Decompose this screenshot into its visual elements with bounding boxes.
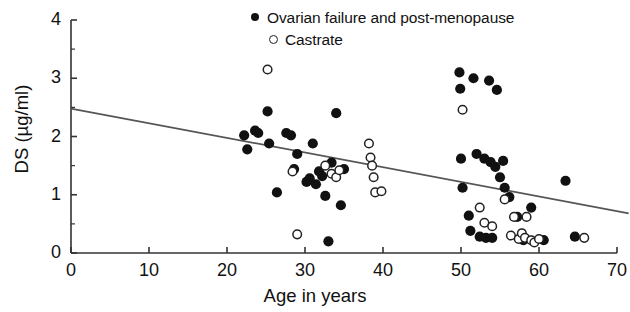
data-point-filled	[331, 108, 341, 118]
data-point-open	[368, 161, 377, 170]
y-tick-label: 0	[35, 243, 61, 261]
y-axis-ticks	[71, 20, 77, 253]
data-point-filled	[253, 128, 263, 138]
data-point-open	[288, 167, 297, 176]
data-point-filled	[336, 200, 346, 210]
data-point-filled	[292, 149, 302, 159]
data-point-filled	[454, 67, 464, 77]
data-point-filled	[262, 106, 272, 116]
data-point-filled	[487, 233, 497, 243]
axes	[71, 20, 617, 253]
x-tick-label: 50	[441, 261, 481, 279]
data-point-filled	[464, 211, 474, 221]
data-point-open	[335, 166, 344, 175]
y-tick-label: 4	[35, 10, 61, 28]
data-point-filled	[242, 144, 252, 154]
y-tick-label: 1	[35, 185, 61, 203]
regression-line	[71, 109, 629, 214]
data-point-filled	[570, 232, 580, 242]
x-tick-label: 10	[129, 261, 169, 279]
data-point-filled	[308, 138, 318, 148]
data-point-filled	[457, 183, 467, 193]
data-point-open	[475, 203, 484, 212]
regression-line-path	[71, 109, 629, 214]
data-point-filled	[468, 73, 478, 83]
x-axis-ticks	[71, 247, 617, 253]
data-point-filled	[311, 179, 321, 189]
data-point-open	[522, 213, 531, 222]
x-tick-label: 20	[207, 261, 247, 279]
open-circle-icon	[266, 35, 280, 44]
data-point-filled	[455, 84, 465, 94]
y-tick-label: 2	[35, 127, 61, 145]
data-points	[239, 65, 588, 247]
data-point-filled	[272, 187, 282, 197]
data-point-open	[321, 161, 330, 170]
x-tick-label: 40	[363, 261, 403, 279]
data-point-open	[365, 139, 374, 148]
data-point-filled	[526, 202, 536, 212]
data-point-filled	[320, 191, 330, 201]
data-point-open	[488, 222, 497, 231]
legend-item-ovarian-failure: Ovarian failure and post-menopause	[248, 6, 628, 28]
legend-label-ovarian-failure: Ovarian failure and post-menopause	[267, 9, 514, 26]
x-tick-label: 30	[285, 261, 325, 279]
filled-circle-icon	[248, 13, 262, 21]
legend-label-castrate: Castrate	[285, 31, 343, 48]
data-point-filled	[484, 75, 494, 85]
x-axis-label: Age in years	[0, 285, 630, 307]
legend-item-castrate: Castrate	[248, 28, 628, 50]
data-point-open	[377, 187, 386, 196]
y-tick-label: 3	[35, 68, 61, 86]
data-point-filled	[560, 176, 570, 186]
data-point-filled	[495, 172, 505, 182]
data-point-open	[580, 234, 589, 243]
data-point-filled	[323, 236, 333, 246]
legend: Ovarian failure and post-menopause Castr…	[248, 6, 628, 50]
data-point-open	[458, 105, 467, 114]
data-point-filled	[317, 171, 327, 181]
data-point-open	[369, 173, 378, 182]
data-point-filled	[492, 85, 502, 95]
data-point-filled	[498, 156, 508, 166]
data-point-open	[293, 230, 302, 239]
data-point-filled	[500, 183, 510, 193]
scatter-plot-figure: Ovarian failure and post-menopause Castr…	[0, 0, 630, 312]
data-point-open	[366, 153, 375, 162]
x-tick-label: 0	[51, 261, 91, 279]
data-point-open	[500, 195, 509, 204]
data-point-filled	[239, 130, 249, 140]
x-tick-label: 70	[597, 261, 630, 279]
data-point-open	[263, 65, 272, 74]
x-tick-label: 60	[519, 261, 559, 279]
y-axis-label: DS (µg/ml)	[11, 64, 33, 194]
data-point-filled	[456, 154, 466, 164]
data-point-filled	[465, 226, 475, 236]
data-point-open	[510, 213, 519, 222]
data-point-open	[535, 235, 544, 244]
data-point-filled	[286, 130, 296, 140]
data-point-filled	[264, 138, 274, 148]
series-castrate	[263, 65, 588, 247]
